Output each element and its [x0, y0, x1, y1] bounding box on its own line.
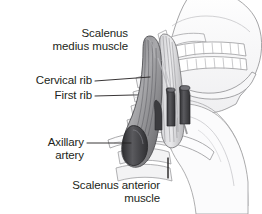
- label-axillary-artery-line2: artery: [0, 149, 84, 162]
- label-scalenus-anterior-line1: Scalenus anterior: [0, 179, 160, 192]
- axillary-artery: [122, 126, 147, 166]
- label-cervical-rib: Cervical rib: [0, 74, 92, 87]
- label-first-rib: First rib: [0, 89, 92, 102]
- label-scalenus-anterior: Scalenus anterior muscle: [0, 179, 160, 204]
- leader-cervical-rib: [95, 95, 133, 96]
- label-scalenus-anterior-line2: muscle: [0, 192, 160, 205]
- label-axillary-artery-line1: Axillary: [0, 136, 84, 149]
- label-axillary-artery: Axillary artery: [0, 136, 84, 161]
- label-first-rib-line1: First rib: [0, 89, 92, 102]
- label-scalenus-medius-line1: Scalenus: [0, 27, 128, 40]
- anatomy-figure: Scalenus medius muscle Cervical rib Firs…: [0, 0, 262, 214]
- label-cervical-rib-line1: Cervical rib: [0, 74, 92, 87]
- label-scalenus-medius-line2: medius muscle: [0, 40, 128, 53]
- label-scalenus-medius: Scalenus medius muscle: [0, 27, 128, 52]
